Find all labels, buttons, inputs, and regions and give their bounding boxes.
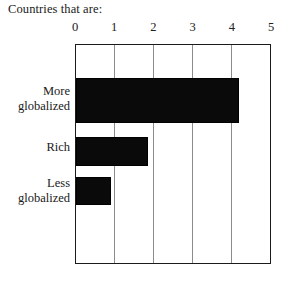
xtick-label-2: 2 <box>143 20 163 35</box>
category-label-less-globalized: Less globalized <box>0 176 70 205</box>
chart-title: Countries that are: <box>8 2 102 17</box>
xtick-label-4: 4 <box>222 20 242 35</box>
bar-less-globalized <box>76 177 111 205</box>
bar-chart: Countries that are: 0 1 2 3 4 5 More glo… <box>0 0 286 284</box>
bar-rich <box>76 137 148 166</box>
bar-more-globalized <box>76 78 239 123</box>
category-label-line: globalized <box>0 191 70 206</box>
category-label-line: Rich <box>0 140 70 155</box>
category-label-more-globalized: More globalized <box>0 84 70 113</box>
xtick-label-0: 0 <box>65 20 85 35</box>
xtick-label-3: 3 <box>183 20 203 35</box>
xtick-label-5: 5 <box>261 20 281 35</box>
category-label-line: globalized <box>0 99 70 114</box>
category-label-line: More <box>0 84 70 99</box>
category-label-rich: Rich <box>0 140 70 155</box>
plot-area <box>75 44 271 264</box>
category-label-line: Less <box>0 176 70 191</box>
xtick-label-1: 1 <box>104 20 124 35</box>
